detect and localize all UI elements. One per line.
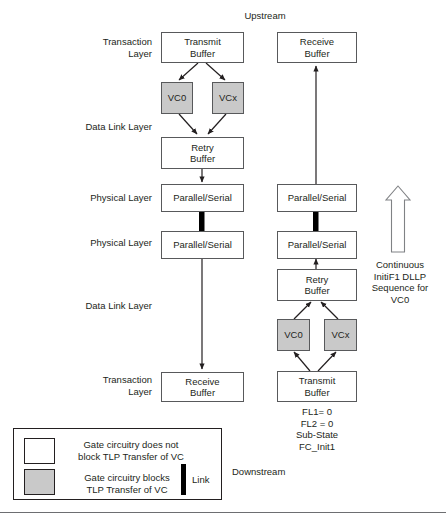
dllp-flow-arrow-icon — [386, 186, 410, 252]
arrow-vc0-to-retry-right — [294, 302, 311, 319]
left-receive-buffer[interactable]: Receive Buffer — [161, 372, 244, 402]
left-transmit-buffer[interactable]: Transmit Buffer — [161, 32, 244, 63]
legend-box: Gate circuitry does not block TLP Transf… — [13, 428, 222, 500]
left-vc0-block[interactable]: VC0 — [161, 82, 193, 114]
downstream-label: Downstream — [232, 466, 332, 478]
arrow-vcx-to-retry — [208, 114, 226, 134]
layer-label-physical-upper: Physical Layer — [32, 192, 152, 204]
left-retry-buffer[interactable]: Retry Buffer — [161, 137, 244, 169]
arrow-transmit-to-vc0-right — [294, 352, 310, 371]
legend-link-bar-icon — [181, 464, 186, 495]
right-parallel-serial-lower[interactable]: Parallel/Serial — [277, 231, 357, 259]
diagram-canvas: Upstream Downstream Transaction Layer Da… — [0, 0, 446, 522]
upstream-label: Upstream — [215, 10, 315, 22]
left-parallel-serial-lower[interactable]: Parallel/Serial — [161, 231, 244, 259]
right-transmit-buffer[interactable]: Transmit Buffer — [277, 371, 357, 402]
legend-link-label: Link — [192, 474, 209, 486]
left-parallel-serial-upper[interactable]: Parallel/Serial — [161, 184, 244, 212]
link-bar-left — [199, 212, 205, 231]
layer-label-datalink-bottom: Data Link Layer — [32, 300, 152, 312]
legend-swatch-gray — [24, 469, 55, 495]
legend-text-gray: Gate circuitry blocks TLP Transfer of VC — [60, 472, 194, 495]
layer-label-transaction-top: Transaction Layer — [32, 36, 152, 59]
layer-label-transaction-bottom: Transaction Layer — [32, 374, 152, 397]
left-vcx-block[interactable]: VCx — [212, 82, 244, 114]
arrow-transmit-to-vcx — [206, 63, 225, 80]
arrow-vc0-to-retry — [179, 114, 197, 134]
bottom-divider — [0, 512, 446, 513]
right-vc0-block[interactable]: VC0 — [277, 319, 310, 351]
layer-label-datalink-top: Data Link Layer — [32, 121, 152, 133]
link-bar-right — [313, 212, 319, 231]
arrow-vcx-to-retry-right — [321, 302, 338, 319]
right-parallel-serial-upper[interactable]: Parallel/Serial — [277, 184, 357, 212]
dllp-sequence-annotation: Continuous InitiF1 DLLP Sequence for VC0 — [360, 259, 440, 305]
legend-swatch-white — [24, 438, 55, 464]
fc-init-state-annotation: FL1= 0 FL2 = 0 Sub-State FC_Init1 — [272, 406, 362, 452]
right-receive-buffer[interactable]: Receive Buffer — [277, 32, 357, 63]
layer-label-physical-lower: Physical Layer — [32, 237, 152, 249]
arrow-transmit-to-vcx-right — [318, 352, 336, 371]
right-retry-buffer[interactable]: Retry Buffer — [277, 269, 357, 301]
right-vcx-block[interactable]: VCx — [324, 319, 357, 351]
legend-text-white: Gate circuitry does not block TLP Transf… — [60, 439, 202, 462]
arrow-transmit-to-vc0 — [179, 63, 198, 80]
